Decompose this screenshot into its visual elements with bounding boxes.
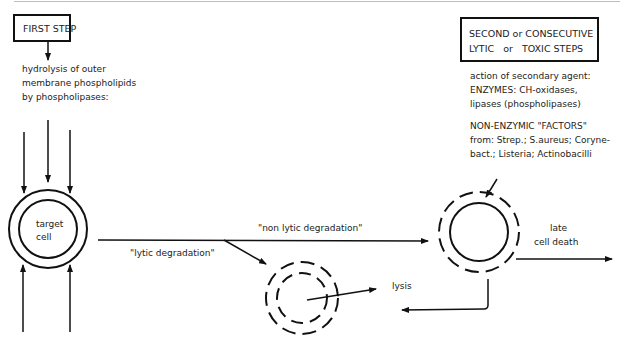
non-enzymic-line: bact.; Listeria; Actinobacilli: [470, 149, 592, 159]
damaged-cell: [439, 192, 519, 272]
second-step-label: LYTIC or TOXIC STEPS: [469, 43, 583, 54]
first-step-description: hydrolysis of outer membrane phospholipi…: [22, 64, 137, 102]
second-step-label: SECOND or CONSECUTIVE: [469, 28, 593, 39]
target-cell-label: target: [36, 219, 64, 229]
phospholipase-arrows-top: [24, 120, 70, 193]
non-enzymic-line: NON-ENZYMIC "FACTORS": [470, 121, 587, 131]
target-cell: target cell: [9, 190, 87, 268]
lytic-label: "lytic degradation": [130, 248, 215, 258]
enzymes-line: lipases (phospholipases): [470, 99, 581, 109]
second-step-box: SECOND or CONSECUTIVE LYTIC or TOXIC STE…: [461, 18, 598, 61]
late-death-label: late: [550, 223, 568, 233]
cell-lysis-diagram: FIRST STEP hydrolysis of outer membrane …: [0, 0, 620, 346]
enzymes-line: action of secondary agent:: [470, 71, 591, 81]
return-to-lysis-arrow: [402, 279, 488, 310]
non-lytic-label: "non lytic degradation": [258, 223, 362, 233]
description-line: by phospholipases:: [22, 92, 109, 102]
lysis-label: lysis: [392, 281, 412, 291]
lysis-arrow: [307, 289, 376, 300]
enzymes-description: action of secondary agent: ENZYMES: CH-o…: [470, 71, 591, 109]
target-cell-label: cell: [36, 232, 52, 242]
lysed-cell: [266, 262, 338, 334]
phospholipase-arrows-bottom: [23, 265, 70, 332]
lytic-arrow: [224, 240, 266, 264]
description-line: hydrolysis of outer: [22, 64, 106, 74]
non-lytic-arrow: [98, 240, 428, 241]
description-line: membrane phospholipids: [22, 78, 137, 88]
first-step-box: FIRST STEP: [14, 15, 77, 41]
non-enzymic-description: NON-ENZYMIC "FACTORS" from: Strep.; S.au…: [470, 121, 610, 159]
non-enzymic-line: from: Strep.; S.aureus; Coryne-: [470, 135, 610, 145]
late-death-label: cell death: [534, 237, 578, 247]
first-step-label: FIRST STEP: [23, 23, 77, 34]
enzymes-line: ENZYMES: CH-oxidases,: [470, 85, 578, 95]
